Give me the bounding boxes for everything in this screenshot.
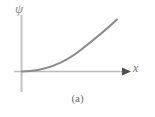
wavefunction-curve xyxy=(22,20,117,72)
y-axis-label: ψ xyxy=(15,2,23,15)
subfigure-caption: (a) xyxy=(0,93,155,104)
x-axis-arrowhead-icon xyxy=(122,68,131,76)
figure-panel: ψ x (a) xyxy=(0,0,155,117)
x-axis-label: x xyxy=(133,62,138,74)
